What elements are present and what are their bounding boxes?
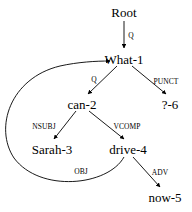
edge-label-what1-punct6-punct: PUNCT xyxy=(153,78,178,86)
edge-can2-to-sarah3 xyxy=(54,111,76,139)
dependency-tree-diagram: Root What-1 can-2 ?-6 Sarah-3 drive-4 no… xyxy=(0,0,192,212)
node-drive-4: drive-4 xyxy=(109,143,147,156)
edge-label-what1-can2-q: Q xyxy=(91,76,97,84)
node-what-1: What-1 xyxy=(105,53,144,66)
node-root: Root xyxy=(111,6,136,19)
edge-label-root-what1-q: Q xyxy=(128,32,134,40)
node-punct-6: ?-6 xyxy=(162,98,179,111)
node-sarah-3: Sarah-3 xyxy=(32,143,72,156)
edge-label-can2-drive4-vcomp: VCOMP xyxy=(113,123,140,131)
node-now-5: now-5 xyxy=(148,191,181,204)
node-can-2: can-2 xyxy=(68,98,97,111)
edge-drive4-to-what1-obj xyxy=(6,61,124,182)
edge-label-can2-sarah3-nsubj: NSUBJ xyxy=(32,123,55,131)
edge-label-drive4-what1-obj: OBJ xyxy=(74,168,88,176)
edge-label-drive4-now5-adv: ADV xyxy=(152,169,169,177)
